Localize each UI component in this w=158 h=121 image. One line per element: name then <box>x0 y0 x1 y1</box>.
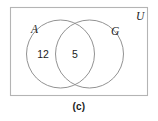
region-count-a-only: 12 <box>37 48 49 60</box>
universal-set-label: U <box>136 10 145 22</box>
region-count-intersection: 5 <box>72 48 78 60</box>
set-a-label: A <box>30 23 39 35</box>
figure-caption: (c) <box>0 100 158 113</box>
venn-diagram-figure: U A G 12 5 (c) <box>0 0 158 121</box>
set-g-label: G <box>111 25 120 37</box>
